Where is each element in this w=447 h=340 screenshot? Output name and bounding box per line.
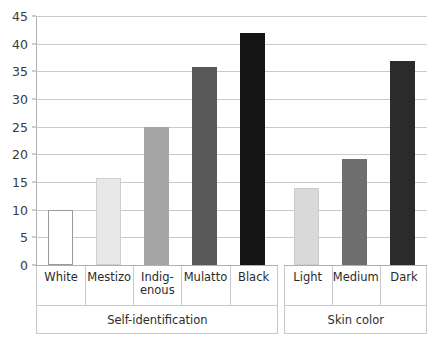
y-tick-label: 35 xyxy=(12,64,28,79)
category-label-line: Black xyxy=(238,271,269,284)
y-tick-label: 20 xyxy=(12,147,28,162)
y-tick-label: 5 xyxy=(20,230,28,245)
category-label-white: White xyxy=(37,266,85,305)
group-label-self-identification: Self-identification xyxy=(37,306,278,333)
category-label-band: WhiteMestizoIndig-enousMulattoBlackLight… xyxy=(36,266,427,306)
category-label-medium: Medium xyxy=(332,266,380,305)
category-label-line: enous xyxy=(140,284,175,297)
band-edge xyxy=(284,266,285,305)
category-label-indigenous: Indig-enous xyxy=(133,266,181,305)
plot-area xyxy=(36,16,427,265)
y-tick-label: 45 xyxy=(12,9,28,24)
bar xyxy=(390,61,415,265)
y-tick-label: 0 xyxy=(20,258,28,273)
y-tick-label: 10 xyxy=(12,202,28,217)
category-label-black: Black xyxy=(230,266,278,305)
category-label-dark: Dark xyxy=(380,266,428,305)
bar-chart: 051015202530354045 WhiteMestizoIndig-eno… xyxy=(0,0,447,340)
category-label-mestizo: Mestizo xyxy=(85,266,133,305)
y-tick-label: 40 xyxy=(12,36,28,51)
category-divider xyxy=(332,266,333,305)
category-label-line: Light xyxy=(293,271,322,284)
category-divider xyxy=(85,266,86,305)
bar xyxy=(294,188,319,265)
y-axis: 051015202530354045 xyxy=(0,0,36,340)
category-label-light: Light xyxy=(284,266,332,305)
band-edge xyxy=(277,266,278,305)
group-divider xyxy=(284,306,285,333)
category-divider xyxy=(181,266,182,305)
bar-series xyxy=(36,16,427,265)
category-divider xyxy=(380,266,381,305)
bar xyxy=(342,159,367,265)
category-label-line: White xyxy=(44,271,77,284)
bar xyxy=(96,178,121,265)
category-divider xyxy=(230,266,231,305)
group-label-band: Self-identificationSkin color xyxy=(36,306,427,334)
group-label-skin-color: Skin color xyxy=(284,306,428,333)
category-label-line: Mulatto xyxy=(184,271,228,284)
bar xyxy=(192,67,217,265)
category-label-line: Mestizo xyxy=(87,271,131,284)
category-label-line: Dark xyxy=(390,271,417,284)
y-tick-label: 30 xyxy=(12,92,28,107)
bar xyxy=(48,210,73,265)
y-tick-label: 15 xyxy=(12,175,28,190)
bar xyxy=(240,33,265,265)
group-divider xyxy=(277,306,278,333)
category-label-line: Medium xyxy=(333,271,379,284)
bar xyxy=(144,127,169,265)
y-tick-label: 25 xyxy=(12,119,28,134)
category-label-mulatto: Mulatto xyxy=(181,266,229,305)
category-divider xyxy=(133,266,134,305)
